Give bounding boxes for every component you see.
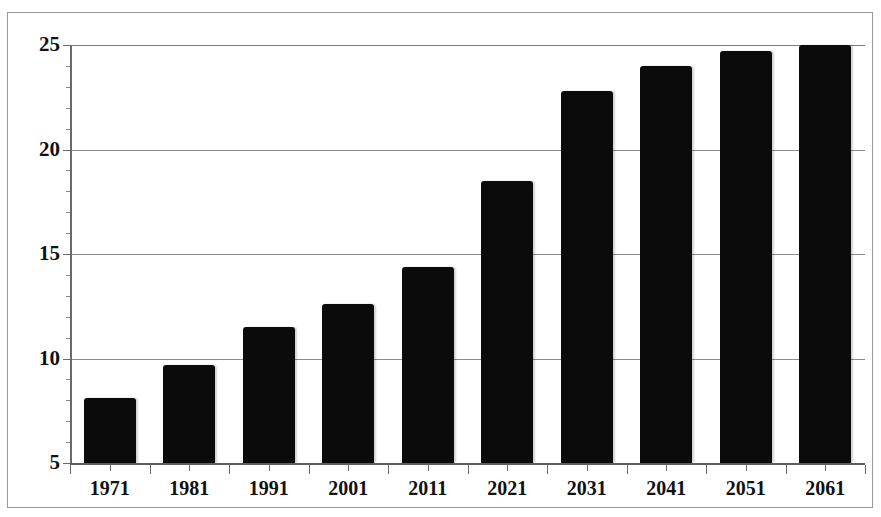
bar-slot — [229, 45, 309, 463]
bar-slot — [70, 45, 150, 463]
x-minor-tick — [507, 465, 508, 471]
x-minor-tick — [189, 465, 190, 471]
plot-area — [70, 45, 865, 463]
x-tick — [229, 465, 230, 474]
x-tick — [150, 465, 151, 474]
bar[interactable] — [481, 181, 533, 463]
y-tick-label: 10 — [14, 348, 60, 369]
x-tick-label: 2001 — [328, 476, 368, 500]
bar[interactable] — [163, 365, 215, 463]
bar-slot — [150, 45, 230, 463]
x-tick — [547, 465, 548, 474]
bar-series — [70, 45, 865, 463]
bar-slot — [627, 45, 707, 463]
bar[interactable] — [640, 66, 692, 463]
x-minor-tick — [428, 465, 429, 471]
bar-slot — [547, 45, 627, 463]
x-tick — [865, 465, 866, 474]
y-tick — [63, 254, 70, 255]
y-tick — [63, 150, 70, 151]
x-tick-label: 2021 — [487, 476, 527, 500]
y-tick-label: 15 — [14, 243, 60, 264]
x-tick-label: 2061 — [805, 476, 845, 500]
x-minor-tick — [110, 465, 111, 471]
x-tick-label: 1971 — [90, 476, 130, 500]
x-tick-label: 1991 — [249, 476, 289, 500]
bar-slot — [388, 45, 468, 463]
chart-title-clip — [0, 0, 881, 12]
y-tick — [63, 45, 70, 46]
bar[interactable] — [561, 91, 613, 463]
y-axis-labels: 510152025 — [8, 45, 70, 463]
x-minor-tick — [269, 465, 270, 471]
x-tick — [309, 465, 310, 474]
x-minor-tick — [348, 465, 349, 471]
bar[interactable] — [84, 398, 136, 463]
bar[interactable] — [243, 327, 295, 463]
y-tick-label: 20 — [14, 139, 60, 160]
x-tick-label: 2041 — [646, 476, 686, 500]
x-tick — [388, 465, 389, 474]
x-tick — [786, 465, 787, 474]
bar[interactable] — [799, 45, 851, 463]
x-tick — [70, 465, 71, 474]
x-tick-label: 2051 — [726, 476, 766, 500]
x-tick-label: 2031 — [567, 476, 607, 500]
y-tick-label: 25 — [14, 34, 60, 55]
bar-slot — [786, 45, 866, 463]
bar[interactable] — [322, 304, 374, 463]
x-minor-tick — [666, 465, 667, 471]
x-minor-tick — [746, 465, 747, 471]
y-tick — [63, 359, 70, 360]
bar[interactable] — [720, 51, 772, 463]
x-tick-label: 1981 — [169, 476, 209, 500]
x-tick — [627, 465, 628, 474]
bar-slot — [706, 45, 786, 463]
bar[interactable] — [402, 267, 454, 463]
x-tick — [468, 465, 469, 474]
bar-slot — [309, 45, 389, 463]
x-tick-label: 2011 — [408, 476, 447, 500]
x-axis-labels: 1971198119912001201120212031204120512061 — [70, 476, 865, 506]
x-tick — [706, 465, 707, 474]
x-minor-tick — [587, 465, 588, 471]
x-minor-tick — [825, 465, 826, 471]
category-axis — [70, 463, 865, 465]
bar-slot — [468, 45, 548, 463]
y-tick — [63, 463, 70, 464]
chart-frame: 510152025 197119811991200120112021203120… — [7, 12, 873, 508]
y-tick-label: 5 — [14, 452, 60, 473]
